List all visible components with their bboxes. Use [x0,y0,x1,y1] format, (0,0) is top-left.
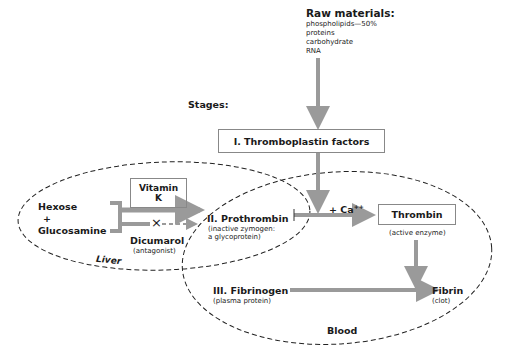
raw-material-item: carbohydrate [306,39,353,46]
diagram-canvas [0,0,510,362]
stage2-note-line2: a glycoprotein) [208,234,261,241]
vitamin-k-box: Vitamin K [130,178,187,208]
thrombin-note: (active enzyme) [389,230,446,237]
stage1-thromboplastin-box: I. Thromboplastin factors [218,129,385,153]
stage1-label: I. Thromboplastin factors [234,136,370,147]
vitamin-k-line1: Vitamin [139,183,178,193]
dicumarol-note: (antagonist) [133,248,176,255]
substrate-bracket [110,203,120,231]
stage2-note-line1: (inactive zymogen: [208,226,275,233]
dicumarol-label: Dicumarol [130,236,184,246]
stage2-prothrombin-label: II. Prothrombin [207,214,288,224]
calcium-label: + Ca [329,204,354,215]
stage3-fibrinogen-label: III. Fibrinogen [213,286,288,296]
substrate-glucosamine: Glucosamine [38,226,106,236]
thrombin-label: Thrombin [391,209,442,220]
fibrin-note: (clot) [432,298,450,305]
substrate-plus: + [43,214,51,224]
raw-material-item: proteins [306,30,335,37]
raw-material-item: phospholipids—50% [306,21,377,28]
calcium-charge: ++ [354,203,364,210]
thrombin-box: Thrombin [378,204,456,225]
stages-label: Stages: [188,100,229,110]
substrate-hexose: Hexose [38,202,77,212]
raw-materials-title: Raw materials: [306,8,395,19]
calcium-cofactor: + Ca++ [329,204,364,215]
fibrin-label: Fibrin [432,286,463,296]
vitamin-k-line2: K [155,193,162,203]
inhibition-x-icon: × [151,216,162,229]
stage3-note: (plasma protein) [213,298,271,305]
raw-material-item: RNA [306,48,321,55]
blood-label: Blood [327,326,357,336]
